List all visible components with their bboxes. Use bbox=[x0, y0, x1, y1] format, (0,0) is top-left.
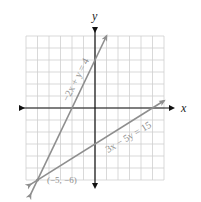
intersection-point bbox=[36, 179, 39, 182]
line-3x-minus-5y-eq-15 bbox=[31, 101, 164, 185]
y-axis-label: y bbox=[91, 9, 98, 23]
line2-label: 3x − 5y = 15 bbox=[103, 119, 153, 155]
intersection-label: (−5, −6) bbox=[47, 175, 77, 185]
x-axis-label: x bbox=[180, 101, 187, 115]
coordinate-graph: x y −2x + y = 4 3x − 5y = 15 (−5, −6) bbox=[0, 0, 201, 202]
